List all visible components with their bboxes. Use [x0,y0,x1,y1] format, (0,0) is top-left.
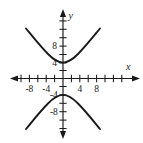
x-axis [10,75,140,82]
x-tick-label-pos4: 4 [77,84,82,94]
y-tick-label-neg4: -4 [50,90,58,100]
y-axis [59,9,66,139]
y-axis-arrow-up [60,9,66,17]
y-tick-label-pos4: 4 [52,58,57,68]
y-tick-label-pos8: 8 [52,41,57,51]
hyperbola-graph-figure: x y -8 -4 4 8 8 4 -4 -8 [0,0,143,143]
x-tick-label-neg8: -8 [25,84,33,94]
y-axis-label: y [68,10,74,21]
y-tick-label-neg8: -8 [50,107,58,117]
x-axis-arrow-right [132,75,140,81]
x-axis-arrow-left [10,75,18,81]
x-tick-label-pos8: 8 [94,84,99,94]
graph-canvas: x y -8 -4 4 8 8 4 -4 -8 [0,0,143,143]
x-axis-label: x [125,61,131,72]
y-axis-arrow-down [60,131,66,139]
